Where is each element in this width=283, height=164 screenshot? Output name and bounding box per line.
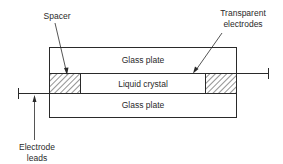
electrodes-leader-line bbox=[196, 33, 222, 70]
top-glass-label: Glass plate bbox=[122, 55, 165, 65]
right-spacer bbox=[206, 74, 237, 94]
bottom-glass-label: Glass plate bbox=[122, 100, 165, 110]
leads-arrowhead-icon bbox=[33, 95, 37, 102]
spacer-leader-line bbox=[55, 23, 66, 70]
lcd-cell-diagram: Glass plate Liquid crystal Glass plate S… bbox=[0, 0, 283, 164]
electrodes-callout-label-line1: Transparent bbox=[220, 8, 266, 18]
spacer-callout-label: Spacer bbox=[44, 11, 71, 21]
liquid-crystal-label: Liquid crystal bbox=[118, 79, 168, 89]
leads-callout-label-line1: Electrode bbox=[19, 142, 55, 152]
leads-callout-label-line2: leads bbox=[27, 153, 47, 163]
left-spacer bbox=[50, 74, 81, 94]
electrodes-callout-label-line2: electrodes bbox=[223, 19, 262, 29]
